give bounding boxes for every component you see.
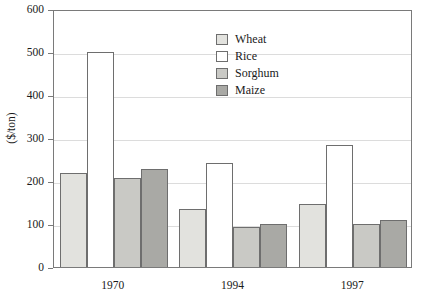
x-tick-label-1997: 1997 — [317, 279, 387, 291]
legend-item-maize[interactable]: Maize — [216, 83, 279, 97]
y-axis-title: ($/ton) — [5, 98, 17, 158]
y-axis: ($/ton) 0100200300400500600 — [0, 0, 53, 278]
bar-rice-1997 — [326, 145, 353, 267]
y-tick-label: 100 — [27, 219, 44, 231]
legend-label: Maize — [235, 84, 265, 96]
bar-rice-1970 — [87, 52, 114, 267]
y-tick-label: 300 — [27, 133, 44, 145]
bar-maize-1970 — [141, 169, 168, 267]
legend-label: Wheat — [235, 33, 266, 45]
legend-label: Sorghum — [235, 67, 279, 79]
bar-group — [54, 9, 174, 267]
bar-wheat-1970 — [60, 173, 87, 267]
bar-maize-1994 — [260, 224, 287, 267]
legend: WheatRiceSorghumMaize — [216, 32, 279, 97]
legend-swatch-rice-icon — [216, 51, 228, 62]
bar-maize-1997 — [380, 220, 407, 267]
x-axis: 197019941997 — [53, 269, 412, 299]
legend-swatch-maize-icon — [216, 85, 228, 96]
y-tick-label: 0 — [38, 262, 44, 274]
legend-item-sorghum[interactable]: Sorghum — [216, 66, 279, 80]
bar-sorghum-1997 — [353, 224, 380, 267]
legend-swatch-wheat-icon — [216, 34, 228, 45]
bar-chart: ($/ton) 0100200300400500600 197019941997… — [0, 0, 425, 307]
legend-item-wheat[interactable]: Wheat — [216, 32, 279, 46]
bar-sorghum-1970 — [114, 178, 141, 267]
x-tick-label-1970: 1970 — [78, 279, 148, 291]
x-tick-label-1994: 1994 — [198, 279, 268, 291]
legend-label: Rice — [235, 50, 257, 62]
y-tick-label: 500 — [27, 47, 44, 59]
legend-item-rice[interactable]: Rice — [216, 49, 279, 63]
y-tick-label: 600 — [27, 4, 44, 16]
bar-sorghum-1994 — [233, 227, 260, 267]
bar-rice-1994 — [206, 163, 233, 267]
y-tick-label: 400 — [27, 90, 44, 102]
y-tick-label: 200 — [27, 176, 44, 188]
legend-swatch-sorghum-icon — [216, 68, 228, 79]
bar-wheat-1994 — [179, 209, 206, 267]
bar-wheat-1997 — [299, 204, 326, 267]
bar-group — [293, 9, 413, 267]
